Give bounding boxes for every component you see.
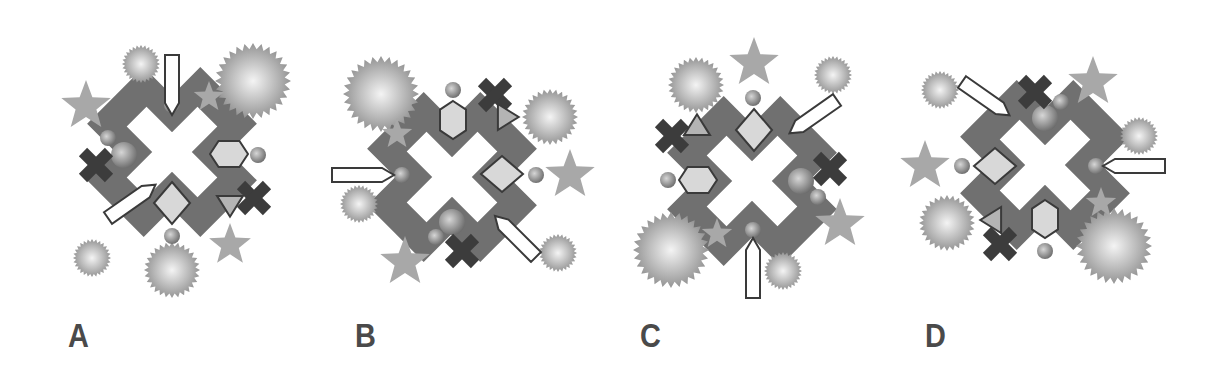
pointer-arrow xyxy=(1103,159,1165,173)
figure-option-a xyxy=(61,43,291,298)
small-sphere xyxy=(394,167,410,183)
starburst-sphere xyxy=(522,89,578,145)
option-label-c: C xyxy=(640,316,661,355)
small-sphere xyxy=(250,147,266,163)
star-shape xyxy=(209,223,251,263)
pointer-arrow xyxy=(332,168,394,182)
small-sphere xyxy=(1053,94,1069,110)
small-sphere xyxy=(745,222,761,238)
figure-option-c xyxy=(633,37,865,298)
hexagon-shape xyxy=(1032,200,1058,238)
small-sphere xyxy=(439,209,465,235)
small-sphere xyxy=(810,189,826,205)
star-shape xyxy=(545,149,594,196)
dark-x-mark xyxy=(659,123,685,149)
small-sphere xyxy=(660,172,676,188)
small-sphere xyxy=(745,90,761,106)
starburst-sphere xyxy=(144,242,200,298)
starburst-sphere xyxy=(1120,117,1158,155)
small-sphere xyxy=(954,158,970,174)
figure-option-d xyxy=(900,56,1165,284)
option-label-b: B xyxy=(355,316,376,355)
small-sphere xyxy=(528,167,544,183)
hexagon-shape xyxy=(440,101,466,139)
pointer-arrow xyxy=(165,55,179,115)
small-sphere xyxy=(1032,105,1058,131)
small-sphere xyxy=(788,168,814,194)
figure-option-b xyxy=(332,56,595,283)
option-label-a: A xyxy=(68,316,89,355)
hexagon-shape xyxy=(679,167,717,193)
dark-x-mark xyxy=(482,82,508,108)
starburst-sphere xyxy=(921,71,959,109)
star-shape xyxy=(729,37,778,84)
small-sphere xyxy=(445,82,461,98)
dark-x-mark xyxy=(817,156,843,182)
option-label-d: D xyxy=(925,316,946,355)
dark-x-mark xyxy=(241,185,267,211)
small-sphere xyxy=(100,130,116,146)
pointer-arrow xyxy=(746,238,760,298)
small-sphere xyxy=(164,228,180,244)
starburst-sphere xyxy=(814,56,852,94)
figure-canvas xyxy=(0,0,1225,372)
dark-x-mark xyxy=(987,231,1013,257)
small-sphere xyxy=(1037,243,1053,259)
star-shape xyxy=(900,140,949,187)
small-sphere xyxy=(428,229,444,245)
starburst-sphere xyxy=(764,252,802,290)
starburst-sphere xyxy=(919,195,975,251)
starburst-sphere xyxy=(539,234,577,272)
starburst-sphere xyxy=(340,185,378,223)
hexagon-shape xyxy=(210,141,248,167)
starburst-sphere xyxy=(122,45,160,83)
small-sphere xyxy=(111,142,137,168)
starburst-sphere xyxy=(73,239,111,277)
